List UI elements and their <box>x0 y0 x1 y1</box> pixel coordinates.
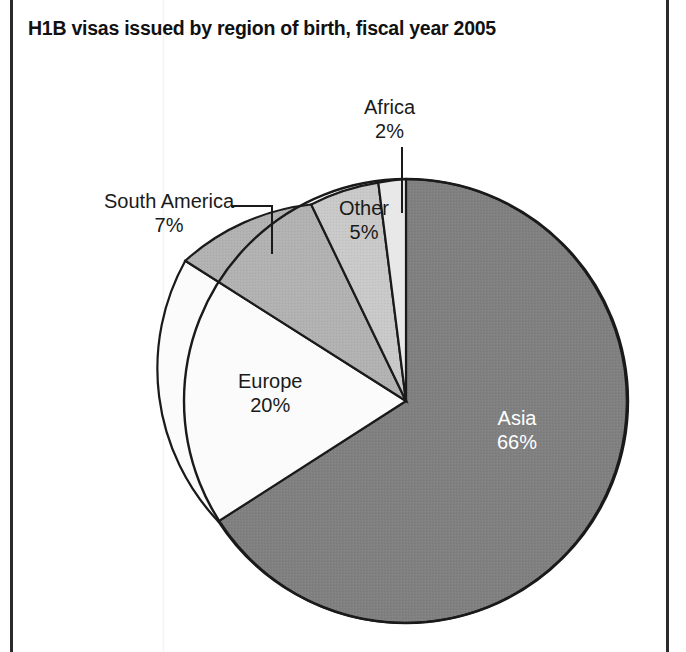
pie-chart <box>0 0 686 652</box>
chart-page: H1B visas issued by region of birth, fis… <box>0 0 686 652</box>
slice-label-africa: Africa 2% <box>364 96 415 143</box>
slice-label-south-america: South America 7% <box>104 190 234 237</box>
pie-slices <box>157 179 628 623</box>
slice-label-africa-value: 2% <box>364 120 415 144</box>
slice-label-south-america-name: South America <box>104 190 234 214</box>
slice-label-other-value: 5% <box>339 221 389 245</box>
slice-label-other-name: Other <box>339 197 389 221</box>
slice-label-asia-value: 66% <box>497 431 537 455</box>
slice-label-asia: Asia 66% <box>497 407 537 454</box>
slice-label-europe-value: 20% <box>238 394 303 418</box>
slice-label-europe: Europe 20% <box>238 370 303 417</box>
slice-label-other: Other 5% <box>339 197 389 244</box>
slice-label-asia-name: Asia <box>497 407 537 431</box>
slice-label-europe-name: Europe <box>238 370 303 394</box>
slice-label-africa-name: Africa <box>364 96 415 120</box>
slice-label-south-america-value: 7% <box>104 214 234 238</box>
